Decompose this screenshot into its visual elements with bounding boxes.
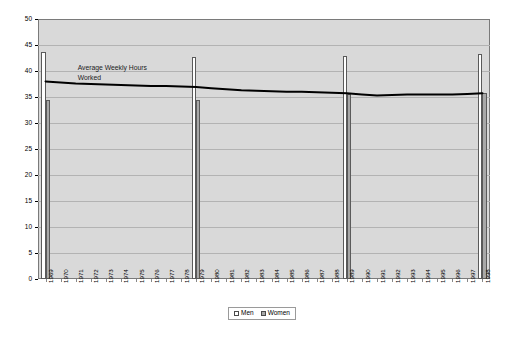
- x-axis-tick-label-1993: 1993: [410, 269, 416, 283]
- x-axis-tick-mark: [181, 279, 182, 282]
- line-series-layer: [0, 0, 509, 341]
- chart-container: 05101520253035404550 1969197019711972197…: [0, 0, 509, 341]
- x-axis-tick-label-1985: 1985: [289, 269, 295, 283]
- x-axis-tick-label-1991: 1991: [380, 269, 386, 283]
- x-axis-tick-label-1979: 1979: [199, 269, 205, 283]
- x-axis-tick-mark: [362, 279, 363, 282]
- x-axis-tick-label-1995: 1995: [440, 269, 446, 283]
- x-axis-tick-mark: [136, 279, 137, 282]
- legend-item-women: Women: [261, 310, 290, 317]
- x-axis-tick-label-1981: 1981: [229, 269, 235, 283]
- x-axis-tick-label-1980: 1980: [214, 269, 220, 283]
- x-axis-tick-label-1971: 1971: [78, 269, 84, 283]
- average-weekly-hours-line: [46, 81, 483, 95]
- x-axis-tick-label-1988: 1988: [334, 269, 340, 283]
- x-axis-tick-label-1998: 1998: [485, 269, 491, 283]
- x-axis-tick-label-1982: 1982: [244, 269, 250, 283]
- gray-square-icon: [261, 311, 266, 316]
- x-axis-tick-label-1983: 1983: [259, 269, 265, 283]
- x-axis-tick-mark: [166, 279, 167, 282]
- x-axis-tick-label-1994: 1994: [425, 269, 431, 283]
- x-axis-tick-label-1987: 1987: [319, 269, 325, 283]
- x-axis-tick-label-1990: 1990: [365, 269, 371, 283]
- x-axis-tick-label-1989: 1989: [349, 269, 355, 283]
- x-axis-tick-label-1984: 1984: [274, 269, 280, 283]
- x-axis-tick-mark: [392, 279, 393, 282]
- legend-label: Women: [268, 310, 290, 317]
- x-axis-tick-label-1978: 1978: [184, 269, 190, 283]
- chart-legend: MenWomen: [228, 307, 296, 320]
- x-axis-tick-mark: [377, 279, 378, 282]
- x-axis-tick-label-1973: 1973: [108, 269, 114, 283]
- x-axis-tick-label-1976: 1976: [154, 269, 160, 283]
- x-axis-tick-label-1986: 1986: [304, 269, 310, 283]
- x-axis-tick-label-1996: 1996: [455, 269, 461, 283]
- legend-label: Men: [241, 310, 254, 317]
- x-axis-tick-mark: [407, 279, 408, 282]
- x-axis-tick-label-1974: 1974: [123, 269, 129, 283]
- x-axis-tick-label-1970: 1970: [63, 269, 69, 283]
- x-axis-tick-label-1977: 1977: [169, 269, 175, 283]
- x-axis-tick-label-1972: 1972: [93, 269, 99, 283]
- x-axis-tick-label-1975: 1975: [139, 269, 145, 283]
- x-axis-tick-mark: [151, 279, 152, 282]
- series-annotation-label: Average Weekly Hours Worked: [78, 63, 147, 83]
- white-square-icon: [234, 311, 239, 316]
- legend-item-men: Men: [234, 310, 254, 317]
- x-axis-tick-label-1969: 1969: [48, 269, 54, 283]
- x-axis-tick-label-1992: 1992: [395, 269, 401, 283]
- x-axis-tick-label-1997: 1997: [470, 269, 476, 283]
